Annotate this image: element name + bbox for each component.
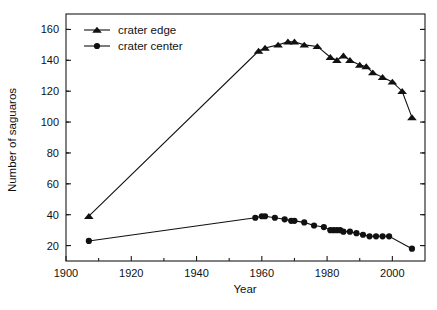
y-axis-ticks (66, 29, 425, 245)
data-point-circle (366, 233, 372, 239)
legend-label: crater edge (118, 24, 176, 36)
y-tick-label: 140 (41, 54, 59, 66)
data-point-circle (347, 229, 353, 235)
series-crater-edge (84, 39, 417, 219)
data-point-circle (379, 233, 385, 239)
legend-label: crater center (118, 40, 183, 52)
data-point-circle (272, 215, 278, 221)
x-tick-label: 1900 (54, 267, 78, 279)
x-tick-label: 1960 (250, 267, 274, 279)
y-tick-label: 80 (47, 147, 59, 159)
data-point-triangle (368, 69, 378, 75)
data-point-triangle (355, 62, 365, 68)
y-tick-label: 40 (47, 209, 59, 221)
data-point-triangle (407, 114, 417, 120)
x-tick-label: 1980 (315, 267, 339, 279)
data-point-circle (291, 218, 297, 224)
y-tick-label: 100 (41, 116, 59, 128)
data-point-circle (409, 246, 415, 252)
data-point-circle (262, 213, 268, 219)
data-point-circle (301, 219, 307, 225)
x-tick-label: 1920 (119, 267, 143, 279)
y-tick-label: 120 (41, 85, 59, 97)
data-point-circle (282, 216, 288, 222)
y-tick-label: 20 (47, 240, 59, 252)
data-point-triangle (388, 79, 398, 85)
data-point-triangle (299, 42, 309, 48)
data-point-circle (386, 233, 392, 239)
data-point-circle (252, 215, 258, 221)
chart-figure: 190019201940196019802000 204060801001201… (0, 0, 437, 310)
data-point-circle (373, 233, 379, 239)
y-axis-tick-labels: 20406080100120140160 (41, 23, 59, 251)
data-point-circle (94, 43, 100, 49)
data-series-layer (84, 39, 417, 252)
chart-legend: crater edgecrater center (84, 24, 183, 52)
x-tick-label: 2000 (380, 267, 404, 279)
data-point-circle (321, 224, 327, 230)
data-point-circle (353, 230, 359, 236)
x-axis-title: Year (233, 283, 256, 295)
series-crater-center (86, 213, 415, 252)
x-axis-tick-labels: 190019201940196019802000 (54, 267, 405, 279)
x-tick-label: 1940 (184, 267, 208, 279)
data-point-circle (340, 229, 346, 235)
data-point-triangle (378, 74, 388, 80)
y-axis-title: Number of saguaros (6, 88, 18, 192)
data-point-circle (360, 232, 366, 238)
data-point-triangle (84, 213, 94, 219)
data-point-triangle (397, 88, 407, 94)
data-point-triangle (273, 42, 283, 48)
y-tick-label: 60 (47, 178, 59, 190)
data-point-triangle (339, 52, 349, 58)
data-point-circle (86, 238, 92, 244)
saguaro-population-chart: 190019201940196019802000 204060801001201… (0, 0, 437, 310)
data-point-circle (311, 222, 317, 228)
y-tick-label: 160 (41, 23, 59, 35)
x-axis-ticks (66, 256, 392, 261)
